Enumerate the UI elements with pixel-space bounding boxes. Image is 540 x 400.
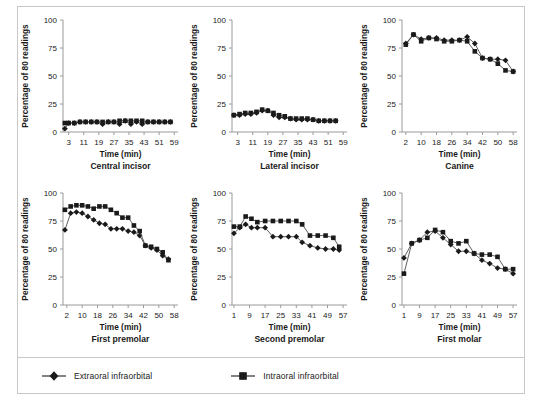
data-point [255, 110, 260, 115]
data-point [78, 120, 83, 125]
data-point [149, 244, 154, 249]
x-tick-label: 57 [508, 310, 517, 319]
data-point [401, 271, 406, 276]
x-tick-label: 9 [248, 310, 253, 319]
data-point [160, 250, 165, 255]
y-axis-label: Percentage of 80 readings [189, 24, 199, 128]
data-point [440, 229, 445, 234]
data-point [456, 241, 461, 246]
data-point [448, 238, 453, 243]
y-tick-label: 25 [387, 273, 396, 282]
data-point [114, 225, 120, 231]
y-tick-label: 25 [217, 100, 226, 109]
data-point [86, 204, 91, 209]
data-point [95, 120, 100, 125]
data-point [91, 206, 96, 211]
data-point [109, 207, 114, 212]
x-tick-label: 35 [294, 138, 303, 147]
chart-first-molar: 025507510019172533414957Percentage of 80… [356, 179, 525, 351]
x-tick-label: 58 [508, 138, 517, 147]
data-point [403, 42, 408, 47]
data-point [331, 246, 337, 252]
data-point [480, 56, 485, 61]
data-point [300, 116, 305, 121]
y-axis-label: Percentage of 80 readings [359, 24, 369, 128]
data-point [68, 210, 74, 216]
data-point [417, 237, 422, 242]
x-axis-label: Time (min) [269, 149, 311, 159]
data-point [255, 219, 260, 224]
chart-canine: 0255075100210182634425058Percentage of 8… [356, 6, 525, 178]
y-tick-label: 100 [44, 16, 58, 25]
y-tick-label: 50 [48, 72, 57, 81]
x-tick-label: 50 [154, 310, 163, 319]
x-tick-label: 42 [478, 138, 487, 147]
data-point [337, 244, 342, 249]
data-point [232, 224, 237, 229]
x-tick-label: 2 [65, 310, 70, 319]
y-tick-label: 100 [382, 16, 396, 25]
x-axis-label: Time (min) [438, 149, 480, 159]
data-point [250, 216, 255, 221]
x-tick-label: 9 [417, 310, 422, 319]
data-point [163, 120, 168, 125]
data-point [426, 36, 431, 41]
x-tick-label: 59 [170, 138, 179, 147]
x-tick-label: 49 [323, 310, 332, 319]
x-tick-label: 1 [401, 310, 406, 319]
data-point [91, 216, 97, 222]
panel-second-premolar: 025507510019172533414957Percentage of 80… [186, 179, 355, 352]
data-point [80, 203, 85, 208]
x-tick-label: 33 [292, 310, 301, 319]
x-tick-label: 51 [324, 138, 333, 147]
data-point [432, 227, 437, 232]
y-axis-label: Percentage of 80 readings [189, 196, 199, 300]
data-point [305, 116, 310, 121]
y-tick-label: 75 [387, 217, 396, 226]
data-point [117, 119, 122, 124]
chart-second-premolar: 025507510019172533414957Percentage of 80… [186, 179, 355, 351]
data-point [322, 119, 327, 124]
data-point [317, 119, 322, 124]
data-point [307, 242, 313, 248]
data-point [465, 39, 470, 44]
x-tick-label: 41 [477, 310, 486, 319]
data-point [112, 120, 117, 125]
data-point [151, 120, 156, 125]
data-point [66, 121, 71, 126]
x-tick-label: 11 [249, 138, 258, 147]
data-point [503, 266, 508, 271]
y-tick-label: 75 [387, 44, 396, 53]
x-tick-label: 11 [80, 138, 89, 147]
chart-central-incisor: 0255075100311192735435159Percentage of 8… [17, 6, 186, 178]
x-tick-label: 42 [139, 310, 148, 319]
y-tick-label: 50 [217, 72, 226, 81]
data-point [449, 39, 454, 44]
x-tick-label: 3 [66, 138, 71, 147]
panel-title: Second premolar [255, 334, 326, 344]
legend-label-intraoral: Intraoral infraorbital [263, 371, 338, 381]
data-point [511, 69, 516, 74]
x-tick-label: 2 [403, 138, 408, 147]
data-point [324, 233, 329, 238]
panel-title: Lateral incisor [260, 161, 319, 171]
y-axis-label: Percentage of 80 readings [20, 196, 30, 300]
y-tick-label: 100 [382, 189, 396, 198]
data-point [419, 39, 424, 44]
legend-label-extraoral: Extraoral infraorbital [74, 371, 152, 381]
data-point [131, 229, 137, 235]
y-tick-label: 75 [217, 217, 226, 226]
x-tick-label: 34 [124, 310, 133, 319]
panel-title: Central incisor [90, 161, 151, 171]
y-tick-label: 0 [391, 301, 396, 310]
data-point [463, 248, 469, 254]
x-tick-label: 41 [308, 310, 317, 319]
data-point [249, 224, 255, 230]
data-point [311, 117, 316, 122]
y-tick-label: 0 [53, 301, 58, 310]
data-point [300, 222, 305, 227]
panel-first-molar: 025507510019172533414957Percentage of 80… [356, 179, 525, 352]
y-tick-label: 50 [387, 245, 396, 254]
data-point [166, 257, 171, 262]
data-point [457, 38, 462, 43]
